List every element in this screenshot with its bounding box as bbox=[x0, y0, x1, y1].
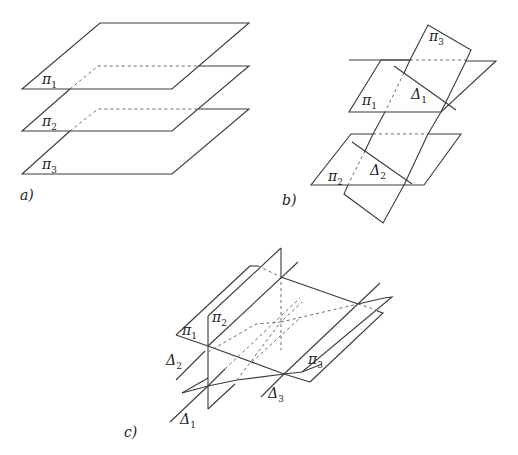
plane-front-edge bbox=[176, 335, 310, 382]
caption-a: a) bbox=[20, 187, 34, 203]
plane-back-edge bbox=[281, 277, 358, 304]
plane-pi3-bottom-b bbox=[344, 185, 404, 223]
label-pi1-a: π1 bbox=[41, 71, 57, 90]
label-delta1-b: Δ1 bbox=[410, 86, 427, 105]
label-pi2-c: π2 bbox=[211, 309, 227, 328]
label-delta3-c: Δ3 bbox=[267, 385, 284, 404]
label-pi2-a: π2 bbox=[41, 113, 57, 132]
planes-diagram: π1 π2 π3 a) π3 π1 Δ1 π2 Δ2 b) bbox=[0, 0, 518, 455]
panel-c: π1 π2 Δ2 π3 Δ3 Δ1 c) bbox=[124, 248, 392, 440]
plane-pi2-top-edge bbox=[208, 248, 281, 316]
label-delta2-c: Δ2 bbox=[165, 352, 182, 371]
label-delta2-b: Δ2 bbox=[369, 162, 386, 181]
caption-b: b) bbox=[282, 192, 296, 208]
label-pi3-b: π3 bbox=[428, 28, 444, 47]
label-pi1-b: π1 bbox=[361, 92, 377, 111]
panel-a: π1 π2 π3 a) bbox=[20, 23, 249, 203]
label-pi1-c: π1 bbox=[181, 322, 197, 341]
caption-c: c) bbox=[124, 424, 137, 440]
label-delta1-c: Δ1 bbox=[179, 411, 196, 430]
label-pi3-a: π3 bbox=[41, 156, 57, 175]
label-pi2-b: π2 bbox=[327, 168, 343, 187]
plane-pi3-hidden-a bbox=[70, 109, 198, 131]
plane-pi2-hidden-a bbox=[70, 66, 198, 89]
panel-b: π3 π1 Δ1 π2 Δ2 b) bbox=[282, 25, 496, 223]
